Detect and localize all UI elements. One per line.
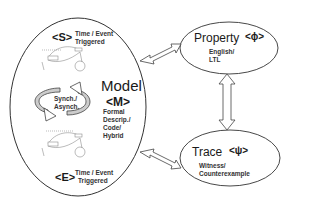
- arrow-model-property: [140, 44, 181, 64]
- property-line1: English/: [209, 49, 234, 56]
- trace-title: Trace: [192, 146, 222, 159]
- start-state-line2: Triggered: [75, 39, 105, 46]
- start-state-diagram-icon: [42, 47, 85, 71]
- cycle-line2: Asynch.: [54, 104, 79, 111]
- model-desc-line2: Descrip./: [103, 117, 130, 124]
- trace-symbol: <ψ>: [229, 146, 248, 157]
- model-desc-line3: Code/: [103, 125, 121, 132]
- start-state-symbol: <S>: [52, 32, 72, 44]
- trace-line2: Counterexample: [199, 171, 250, 178]
- start-state-line1: Time / Event: [75, 31, 113, 38]
- end-state-line1: Time / Event: [75, 170, 113, 177]
- trace-line1: Witness/: [199, 163, 226, 170]
- cycle-line1: Synch./: [54, 96, 77, 103]
- model-symbol: <M>: [106, 96, 130, 109]
- model-desc-line4: Hybrid: [103, 133, 124, 140]
- arrow-property-trace: [219, 74, 235, 130]
- end-state-line2: Triggered: [78, 178, 108, 185]
- arrow-model-trace: [140, 149, 181, 169]
- end-state-diagram-icon: [42, 131, 85, 157]
- model-desc-line1: Formal: [103, 109, 125, 116]
- property-title: Property: [194, 32, 239, 45]
- end-state-symbol: <E>: [55, 172, 75, 184]
- property-line2: LTL: [209, 57, 220, 64]
- model-title: Model: [101, 78, 142, 94]
- property-symbol: <ϕ>: [245, 32, 264, 43]
